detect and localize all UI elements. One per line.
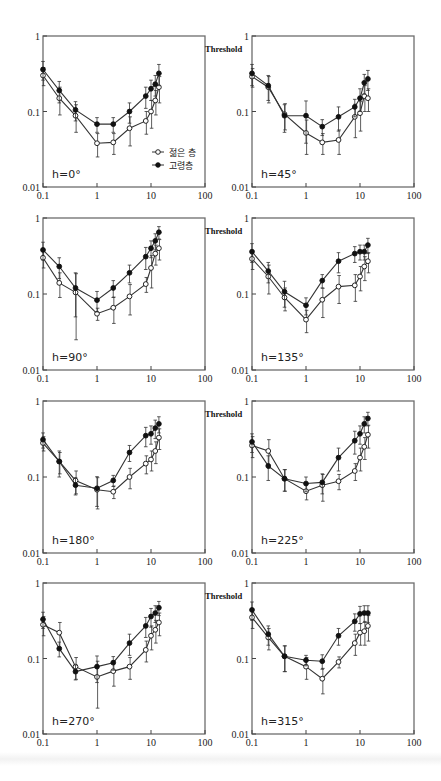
page-footer-band xyxy=(0,752,441,766)
series-elderly xyxy=(250,602,371,672)
filled-circle-marker xyxy=(320,659,325,664)
open-circle-marker xyxy=(153,98,158,103)
x-tick-label: 100 xyxy=(407,556,422,567)
open-circle-marker xyxy=(352,283,357,288)
x-tick-label: 1 xyxy=(95,190,100,201)
filled-circle-marker xyxy=(73,286,78,291)
open-circle-marker xyxy=(153,449,158,454)
series-elderly xyxy=(41,417,162,507)
filled-circle-marker xyxy=(95,664,100,669)
series-line xyxy=(252,259,368,320)
filled-circle-marker xyxy=(143,624,148,629)
x-tick-label: 1 xyxy=(304,556,309,567)
filled-circle-marker xyxy=(143,254,148,259)
filled-circle-marker xyxy=(95,486,100,491)
filled-circle-marker xyxy=(362,80,367,85)
y-tick-label: 0.1 xyxy=(28,654,41,665)
legend-label-young: 젊은 층 xyxy=(169,147,196,158)
open-circle-marker xyxy=(57,280,62,285)
filled-circle-marker xyxy=(111,660,116,665)
filled-circle-marker xyxy=(156,421,161,426)
filled-circle-marker xyxy=(73,483,78,488)
filled-circle-marker xyxy=(156,605,161,610)
open-circle-marker xyxy=(111,489,116,494)
series-elderly xyxy=(41,601,162,682)
open-circle-marker xyxy=(320,140,325,145)
filled-circle-marker xyxy=(352,438,357,443)
x-tick-label: 1 xyxy=(95,373,100,384)
filled-circle-marker xyxy=(250,439,255,444)
y-tick-label: 0.1 xyxy=(28,472,41,483)
y-tick-label: 0.1 xyxy=(28,107,41,118)
series-young xyxy=(250,251,371,333)
y-tick-label: 1 xyxy=(244,396,249,407)
legend: 젊은 층고령층 xyxy=(152,147,196,171)
x-tick-label: 1 xyxy=(304,737,309,748)
x-tick-label: 100 xyxy=(198,190,213,201)
legend-open-circle-icon xyxy=(156,150,161,155)
chart-panel-225deg: 0.11101000.010.11h=225° xyxy=(232,396,422,567)
filled-circle-marker xyxy=(365,77,370,82)
open-circle-marker xyxy=(143,647,148,652)
series-line xyxy=(43,424,159,488)
y-tick-label: 0.01 xyxy=(232,548,250,559)
panel-label: h=180° xyxy=(52,534,95,547)
y-axis-label-threshold: Threshold xyxy=(205,409,242,419)
panel-label: h=90° xyxy=(52,351,88,364)
x-tick-label: 10 xyxy=(355,373,365,384)
x-tick-label: 10 xyxy=(146,373,156,384)
filled-circle-marker xyxy=(57,646,62,651)
chart-panel-270deg: 0.11101000.010.11h=270°Threshold xyxy=(23,578,243,748)
open-circle-marker xyxy=(153,251,158,256)
panel-label: h=270° xyxy=(52,715,95,728)
filled-circle-marker xyxy=(362,249,367,254)
y-tick-label: 1 xyxy=(35,213,40,224)
y-tick-label: 1 xyxy=(35,396,40,407)
open-circle-marker xyxy=(304,317,309,322)
open-circle-marker xyxy=(156,435,161,440)
x-tick-label: 1 xyxy=(304,190,309,201)
x-tick-label: 1 xyxy=(95,556,100,567)
panel-label: h=135° xyxy=(261,351,304,364)
filled-circle-marker xyxy=(127,270,132,275)
filled-circle-marker xyxy=(304,658,309,663)
filled-circle-marker xyxy=(365,243,370,248)
y-tick-label: 0.1 xyxy=(237,289,250,300)
chart-panel-135deg: 0.11101000.010.11h=135° xyxy=(232,213,422,384)
filled-circle-marker xyxy=(127,641,132,646)
filled-circle-marker xyxy=(282,289,287,294)
x-tick-label: 100 xyxy=(407,737,422,748)
x-tick-label: 100 xyxy=(198,373,213,384)
open-circle-marker xyxy=(143,461,148,466)
open-circle-marker xyxy=(111,305,116,310)
filled-circle-marker xyxy=(57,264,62,269)
filled-circle-marker xyxy=(266,463,271,468)
panel-label: h=315° xyxy=(261,715,304,728)
x-tick-label: 100 xyxy=(198,737,213,748)
filled-circle-marker xyxy=(127,109,132,114)
y-tick-label: 1 xyxy=(35,578,40,589)
chart-panel-0deg: 0.11101000.010.11h=0°Threshold젊은 층고령층 xyxy=(23,31,243,201)
open-circle-marker xyxy=(365,96,370,101)
legend-label-elderly: 고령층 xyxy=(169,160,193,171)
filled-circle-marker xyxy=(250,249,255,254)
filled-circle-marker xyxy=(41,248,46,253)
y-tick-label: 0.1 xyxy=(237,654,250,665)
filled-circle-marker xyxy=(362,421,367,426)
open-circle-marker xyxy=(143,282,148,287)
series-young xyxy=(250,69,371,155)
x-tick-label: 100 xyxy=(198,556,213,567)
open-circle-marker xyxy=(266,449,271,454)
open-circle-marker xyxy=(352,641,357,646)
filled-circle-marker xyxy=(143,433,148,438)
filled-circle-marker xyxy=(266,83,271,88)
filled-circle-marker xyxy=(153,82,158,87)
y-tick-label: 0.01 xyxy=(232,182,250,193)
x-tick-label: 10 xyxy=(355,190,365,201)
chart-panel-45deg: 0.11101000.010.11h=45° xyxy=(232,31,422,201)
filled-circle-marker xyxy=(156,230,161,235)
plot-frame xyxy=(252,583,414,734)
filled-circle-marker xyxy=(304,303,309,308)
filled-circle-marker xyxy=(282,113,287,118)
filled-circle-marker xyxy=(266,632,271,637)
